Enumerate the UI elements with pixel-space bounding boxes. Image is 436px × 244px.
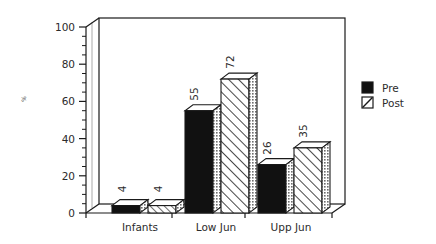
bar-value-uppjun-pre: 26 <box>261 141 273 155</box>
y-tick-label-40: 40 <box>62 133 75 145</box>
bar-lowjun-post <box>221 73 257 213</box>
y-tick-label-60: 60 <box>62 95 75 107</box>
bar-uppjun-post <box>294 142 330 213</box>
bar-infants-post <box>148 200 184 213</box>
chart-container: 100 80 60 40 20 0 % 4 4 <box>0 0 436 244</box>
bar-value-infants-post: 4 <box>152 185 164 192</box>
legend-item-post: Post <box>362 97 404 109</box>
legend-label-pre: Pre <box>382 82 399 94</box>
bar-value-lowjun-pre: 55 <box>188 87 200 100</box>
bar-infants-pre <box>112 200 148 213</box>
legend-label-post: Post <box>382 97 404 109</box>
y-tick-label-100: 100 <box>55 21 75 33</box>
x-tick-label-lowjun: Low Jun <box>196 221 236 233</box>
x-tick-label-uppjun: Upp Jun <box>271 221 312 233</box>
bar-lowjun-pre <box>185 105 221 213</box>
y-tick-label-80: 80 <box>62 58 75 70</box>
y-tick-label-0: 0 <box>68 207 75 219</box>
y-axis-title: % <box>20 96 27 102</box>
legend-swatch-pre <box>362 82 373 93</box>
y-tick-label-20: 20 <box>62 170 75 182</box>
bar-uppjun-pre <box>258 159 294 213</box>
bar-value-lowjun-post: 72 <box>224 55 236 68</box>
bar-value-uppjun-post: 35 <box>297 124 309 137</box>
bar-value-infants-pre: 4 <box>116 185 128 192</box>
x-tick-label-infants: Infants <box>122 221 158 233</box>
bar-chart-svg: 100 80 60 40 20 0 % 4 4 <box>0 0 436 244</box>
